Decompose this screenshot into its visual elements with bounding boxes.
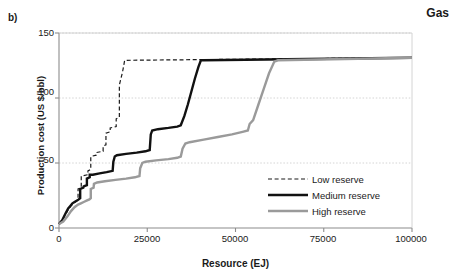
legend-label-low-reserve: Low reserve	[312, 174, 364, 185]
grid-lines	[59, 33, 412, 163]
legend-label-high-reserve: High reserve	[312, 206, 366, 217]
legend-swatches	[268, 179, 308, 211]
plot-area	[0, 0, 457, 280]
figure-panel: b) Gas Production cost (US $/bbl) Resour…	[0, 0, 457, 280]
legend-label-medium-reserve: Medium reserve	[312, 190, 380, 201]
